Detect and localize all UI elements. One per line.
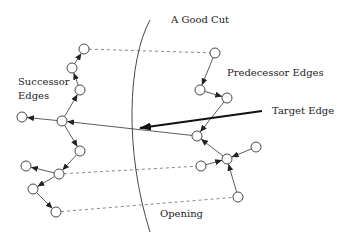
label-good-cut: A Good Cut <box>171 13 229 26</box>
graph-node <box>192 131 202 141</box>
graph-node <box>21 161 31 171</box>
label-successor-edges-1: Successor <box>18 75 69 88</box>
graph-edge <box>206 160 222 164</box>
label-opening: Opening <box>160 207 203 220</box>
graph-node <box>17 112 27 122</box>
graph-edge <box>65 95 78 117</box>
graph-node <box>233 192 243 202</box>
graph-node <box>251 142 261 152</box>
graph-edge <box>38 176 55 186</box>
graph-node <box>210 48 220 58</box>
graph-node <box>196 161 206 171</box>
graph-edge <box>75 54 81 64</box>
graph-edge <box>205 91 222 96</box>
dashed-link <box>61 197 233 211</box>
graph-node <box>28 184 38 194</box>
graph-node <box>51 207 61 217</box>
graph-node <box>75 85 85 95</box>
graph-node <box>75 146 85 156</box>
dashed-link <box>89 49 210 53</box>
label-successor-edges-2: Edges <box>18 89 49 102</box>
graph-edge <box>232 149 251 157</box>
label-predecessor-edges: Predecessor Edges <box>227 66 324 79</box>
graph-edge <box>63 155 77 170</box>
graph-node <box>195 85 205 95</box>
graph-edge <box>229 164 237 192</box>
graph-edge <box>65 125 78 146</box>
graph-edge <box>202 58 213 85</box>
graph-edge <box>74 73 78 85</box>
cut-diagram <box>0 0 340 240</box>
label-target-edge: Target Edge <box>272 104 334 117</box>
graph-node <box>222 154 232 164</box>
graph-edge <box>37 193 53 209</box>
dashed-link <box>64 166 196 173</box>
graph-node <box>67 63 77 73</box>
target-edge-arrow <box>140 111 262 128</box>
graph-node <box>57 116 67 126</box>
graph-node <box>79 44 89 54</box>
graph-edge <box>27 118 57 121</box>
graph-node <box>54 169 64 179</box>
graph-node <box>222 93 232 103</box>
graph-edge <box>31 167 54 173</box>
graph-edge <box>201 139 223 156</box>
